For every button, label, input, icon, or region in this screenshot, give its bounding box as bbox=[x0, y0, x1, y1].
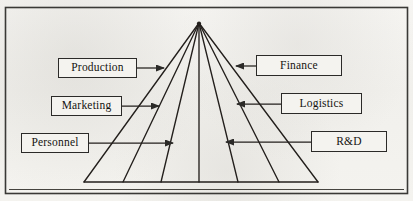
pyramid-apex bbox=[197, 21, 201, 25]
label-text-marketing: Marketing bbox=[62, 100, 112, 112]
label-box-personnel[interactable]: Personnel bbox=[21, 133, 89, 153]
label-text-rnd: R&D bbox=[336, 135, 362, 147]
label-box-finance[interactable]: Finance bbox=[256, 55, 342, 76]
label-text-logistics: Logistics bbox=[300, 97, 344, 109]
label-box-production[interactable]: Production bbox=[58, 58, 137, 78]
label-box-marketing[interactable]: Marketing bbox=[51, 96, 122, 116]
label-text-personnel: Personnel bbox=[31, 137, 78, 149]
label-box-logistics[interactable]: Logistics bbox=[281, 93, 362, 114]
pyramid-ray-right-2 bbox=[199, 23, 279, 182]
pyramid-ray-right-3 bbox=[199, 23, 238, 182]
label-text-finance: Finance bbox=[280, 59, 318, 71]
label-text-production: Production bbox=[71, 62, 123, 74]
pyramid-ray-left-2 bbox=[123, 23, 199, 182]
diagram-canvas: Production Marketing Personnel Finance L… bbox=[0, 0, 413, 201]
pyramid-ray-left-3 bbox=[161, 23, 199, 182]
label-box-rnd[interactable]: R&D bbox=[311, 131, 387, 152]
